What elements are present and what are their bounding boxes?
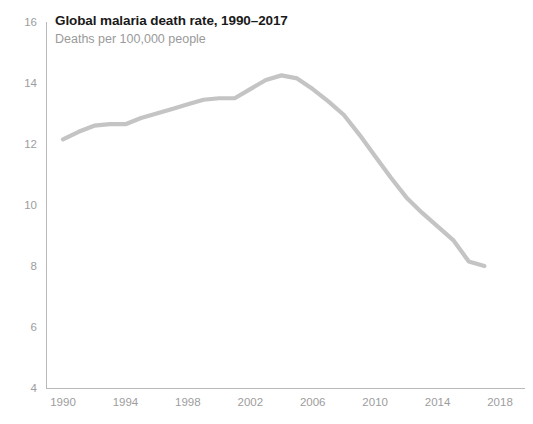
x-axis-tick-labels: 19901994199820022006201020142018 (50, 396, 513, 408)
x-axis-tick-2006: 2006 (300, 396, 326, 408)
series-line-global-malaria-death-rate (63, 75, 484, 266)
y-axis-tick-4: 4 (31, 382, 38, 394)
y-axis-tick-8: 8 (31, 260, 37, 272)
y-axis-tick-14: 14 (24, 77, 37, 89)
x-axis-tick-2014: 2014 (425, 396, 451, 408)
x-axis-tick-2018: 2018 (487, 396, 513, 408)
x-axis-tick-1998: 1998 (175, 396, 201, 408)
x-axis-tick-2010: 2010 (362, 396, 388, 408)
x-axis-tick-2002: 2002 (237, 396, 263, 408)
y-axis-tick-labels: 16141210864 (24, 16, 37, 394)
y-axis-tick-16: 16 (24, 16, 37, 28)
x-axis-tick-1990: 1990 (50, 396, 76, 408)
chart-container: Global malaria death rate, 1990–2017 Dea… (0, 0, 533, 424)
y-axis-tick-6: 6 (31, 321, 37, 333)
x-axis-tick-1994: 1994 (113, 396, 139, 408)
y-axis-tick-12: 12 (24, 138, 37, 150)
line-chart-plot: 16141210864 1990199419982002200620102014… (0, 0, 533, 424)
y-axis-tick-10: 10 (24, 199, 37, 211)
